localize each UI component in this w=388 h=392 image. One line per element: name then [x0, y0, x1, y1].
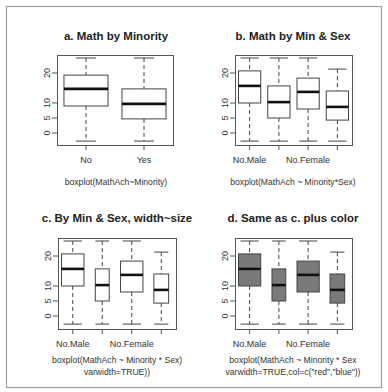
panel-caption-line2: varwidth=TRUE))	[84, 367, 150, 377]
iqr-box	[297, 78, 319, 109]
x-tick-label: No.Male	[233, 155, 267, 165]
x-tick-label: No.Female	[110, 339, 154, 349]
panel-caption: boxplot(MathAch ~ Minority*Sex)	[230, 177, 356, 187]
iqr-box	[154, 274, 169, 303]
panel-caption: boxplot(MathAch~Minority)	[65, 177, 168, 187]
y-tick-label: 0	[220, 130, 230, 135]
panel-caption: boxplot(MathAch ~ Minority * Sex	[229, 355, 357, 365]
y-tick-label: 20	[220, 251, 230, 261]
y-tick-label: 5	[220, 115, 230, 120]
y-tick-label: 20	[42, 68, 52, 78]
panel-title: b. Math by Min & Sex	[235, 30, 351, 42]
y-tick-label: 5	[43, 298, 53, 303]
y-tick-label: 20	[220, 68, 230, 78]
iqr-box	[297, 261, 319, 292]
panel-caption: boxplot(MathAch ~ Minority * Sex)	[52, 355, 182, 365]
x-tick-label: No.Female	[286, 155, 330, 165]
panel-title: d. Same as c. plus color	[227, 212, 359, 224]
panel-title: a. Math by Minority	[64, 30, 169, 42]
y-tick-label: 5	[42, 115, 52, 120]
y-tick-label: 0	[43, 313, 53, 318]
x-tick-label: Yes	[137, 155, 152, 165]
x-tick-label: No.Female	[286, 339, 330, 349]
panel-title: c. By Min & Sex, width~size	[42, 212, 193, 224]
iqr-box	[326, 91, 348, 120]
iqr-box	[121, 261, 143, 292]
y-tick-label: 10	[43, 281, 53, 291]
iqr-box	[64, 75, 108, 106]
y-tick-label: 20	[43, 251, 53, 261]
y-tick-label: 0	[42, 130, 52, 135]
y-tick-label: 10	[220, 281, 230, 291]
x-tick-label: No.Male	[233, 339, 267, 349]
y-tick-label: 0	[220, 313, 230, 318]
y-tick-label: 10	[42, 98, 52, 108]
y-tick-label: 10	[220, 98, 230, 108]
panel-caption-line2: varwidth=TRUE,col=c("red","blue"))	[226, 367, 361, 377]
iqr-box	[330, 274, 345, 303]
x-tick-label: No.Male	[56, 339, 90, 349]
x-tick-label: No	[80, 155, 92, 165]
figure-canvas: a. Math by Minority 051020NoYes boxplot(…	[0, 0, 388, 392]
boxplot-figure: a. Math by Minority 051020NoYes boxplot(…	[0, 0, 388, 392]
y-tick-label: 5	[220, 298, 230, 303]
figure-border	[7, 7, 382, 388]
